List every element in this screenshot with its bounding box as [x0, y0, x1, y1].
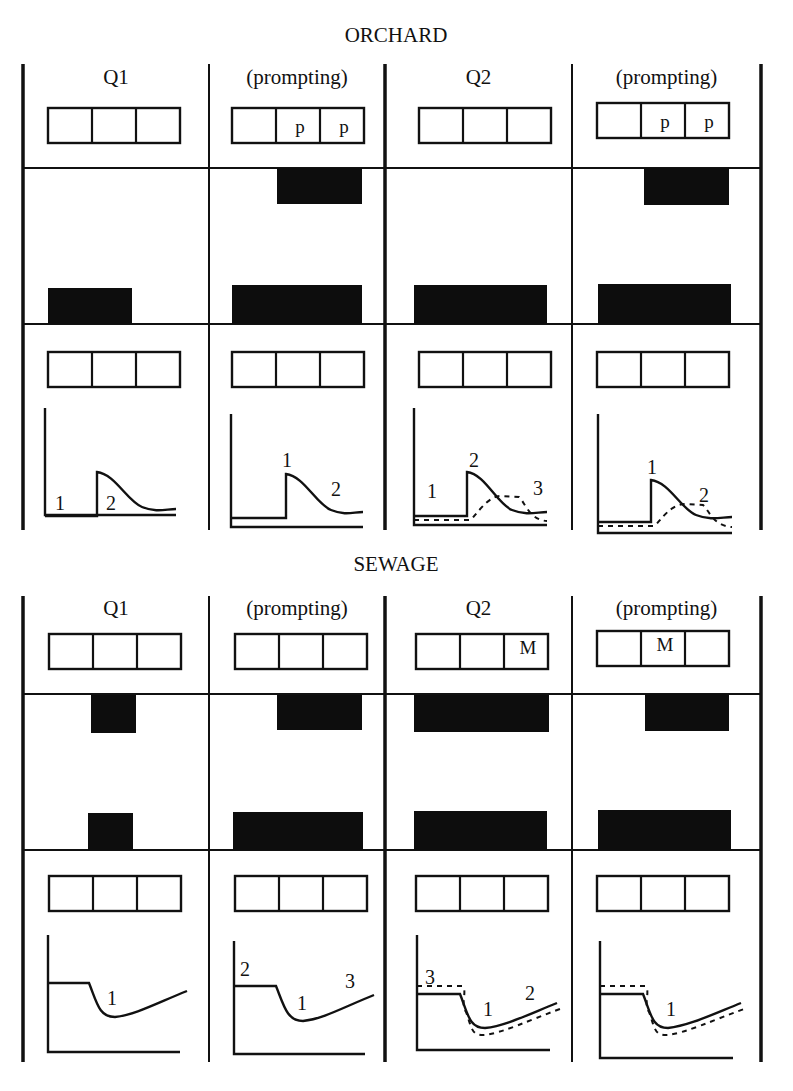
column-4: (prompting)pp12 — [597, 65, 732, 533]
column-header: (prompting) — [616, 596, 717, 620]
mini-chart: 12 — [231, 414, 363, 527]
column-header: (prompting) — [246, 65, 347, 89]
curve-label: 2 — [240, 958, 250, 980]
column-3: Q2123 — [414, 65, 551, 525]
solid-curve — [48, 983, 187, 1017]
mini-chart: 12 — [45, 408, 176, 516]
column-header: Q2 — [466, 65, 492, 89]
column-2: (prompting)pp12 — [231, 65, 364, 527]
upper-black-block — [414, 695, 549, 732]
lower-black-block — [414, 285, 547, 324]
lower-black-block — [598, 810, 731, 850]
upper-black-block — [644, 168, 729, 205]
curve-label: 1 — [55, 492, 65, 514]
curve-label: 1 — [647, 456, 657, 478]
upper-black-block — [645, 694, 729, 731]
lower-black-block — [414, 811, 547, 850]
column-1: Q11 — [48, 596, 187, 1052]
curve-label: 2 — [106, 492, 116, 514]
cell-letter: M — [520, 637, 537, 658]
lower-black-block — [232, 285, 362, 324]
curve-label: 2 — [331, 478, 341, 500]
study-diagram-figure: ORCHARDQ112(prompting)pp12Q2123(promptin… — [0, 0, 793, 1091]
curve-label: 1 — [666, 998, 676, 1020]
upper-black-block — [277, 168, 362, 204]
cell-letter: p — [295, 116, 305, 137]
top-cell-box: M — [597, 631, 729, 666]
column-1: Q112 — [45, 65, 180, 516]
curve-label: 3 — [345, 970, 355, 992]
chart-axes — [231, 414, 363, 527]
lower-black-block — [233, 812, 363, 850]
panel-title: SEWAGE — [353, 552, 438, 576]
top-cell-box — [48, 108, 180, 143]
mini-chart: 1 — [48, 935, 187, 1052]
bottom-cell-box — [48, 352, 180, 387]
bottom-cell-box — [232, 352, 364, 387]
solid-curve — [231, 474, 363, 518]
bottom-cell-box — [597, 876, 729, 911]
panels-group: ORCHARDQ112(prompting)pp12Q2123(promptin… — [23, 23, 761, 1062]
panel-sewage: SEWAGEQ11(prompting)231Q2M312(prompting)… — [23, 552, 761, 1062]
bottom-cell-box — [235, 876, 367, 911]
cell-letter: p — [660, 111, 670, 132]
dashed-curve — [598, 504, 732, 527]
top-cell-box — [419, 108, 551, 143]
column-4: (prompting)M1 — [597, 596, 744, 1058]
column-header: Q2 — [466, 596, 492, 620]
top-cell-box: M — [416, 634, 548, 669]
curve-label: 1 — [483, 998, 493, 1020]
cell-letter: p — [339, 116, 349, 137]
cell-letter: M — [657, 634, 674, 655]
mini-chart: 1 — [600, 941, 744, 1058]
curve-label: 2 — [469, 449, 479, 471]
curve-label: 1 — [107, 987, 117, 1009]
curve-label: 1 — [282, 449, 292, 471]
mini-chart: 312 — [417, 935, 560, 1050]
curve-label: 2 — [699, 484, 709, 506]
column-2: (prompting)231 — [233, 596, 374, 1054]
mini-chart: 123 — [414, 408, 547, 525]
cell-letter: p — [704, 111, 714, 132]
upper-black-block — [91, 695, 136, 733]
column-header: (prompting) — [616, 65, 717, 89]
column-header: (prompting) — [246, 596, 347, 620]
lower-black-block — [48, 288, 132, 324]
mini-chart: 231 — [234, 941, 374, 1054]
column-header: Q1 — [103, 596, 129, 620]
lower-black-block — [88, 813, 133, 850]
bottom-cell-box — [597, 352, 729, 387]
bottom-cell-box — [49, 876, 181, 911]
top-cell-box — [235, 634, 367, 669]
panel-title: ORCHARD — [345, 23, 448, 47]
bottom-cell-box — [419, 352, 551, 387]
lower-black-block — [598, 284, 731, 324]
panel-orchard: ORCHARDQ112(prompting)pp12Q2123(promptin… — [23, 23, 761, 533]
bottom-cell-box — [416, 876, 548, 911]
top-cell-box: pp — [597, 103, 729, 138]
upper-black-block — [277, 695, 362, 730]
curve-label: 2 — [525, 982, 535, 1004]
top-cell-box — [49, 634, 181, 669]
curve-label: 1 — [427, 480, 437, 502]
curve-label: 3 — [425, 966, 435, 988]
top-cell-box: pp — [232, 108, 364, 143]
curve-label: 3 — [533, 477, 543, 499]
mini-chart: 12 — [598, 414, 732, 533]
column-3: Q2M312 — [414, 596, 560, 1050]
column-header: Q1 — [103, 65, 129, 89]
curve-label: 1 — [297, 992, 307, 1014]
